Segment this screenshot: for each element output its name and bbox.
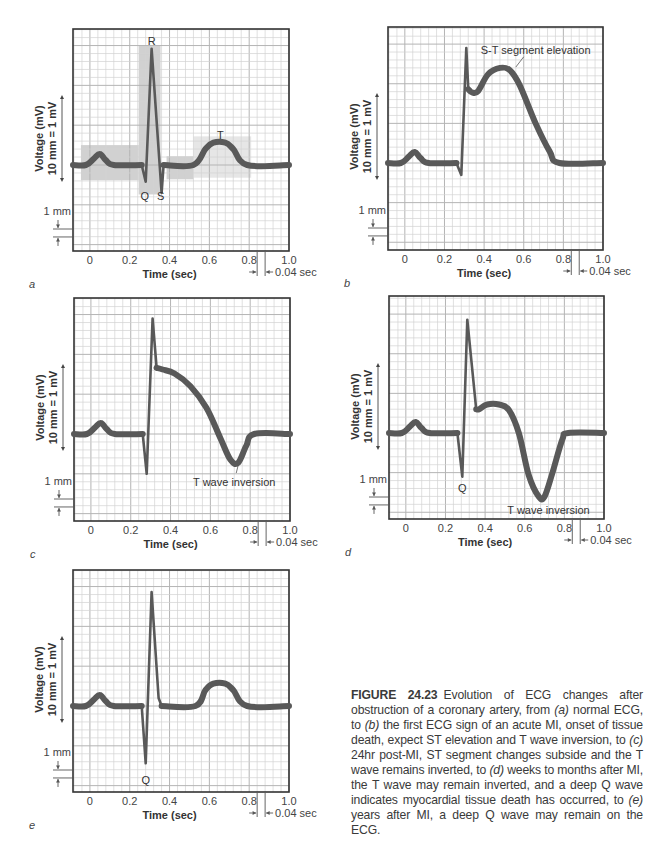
y-axis-scale: 10 mm = 1 mV (47, 370, 59, 444)
wave-label: Q (141, 774, 150, 786)
voltage-scale-arrow (376, 363, 380, 450)
mm-scale-indicator: 1 mm (44, 746, 74, 787)
caption-panel-ref: (d) (489, 763, 503, 777)
plot-frame (389, 296, 604, 519)
wave-label: R (148, 35, 156, 47)
x-tick-label: 0.8 (242, 795, 257, 807)
x-axis-title: Time (sec) (457, 267, 512, 279)
x-tick-label: 0.2 (123, 524, 138, 536)
x-tick-label: 0.4 (477, 522, 492, 534)
x-tick-label: 0.8 (556, 253, 571, 265)
mm-scale-indicator: 1 mm (360, 473, 390, 514)
y-axis-title: Voltage (mV) (349, 373, 361, 440)
time-scale-label: 0.04 sec (275, 266, 317, 278)
x-tick-label: 0.4 (476, 253, 491, 265)
x-tick-label: 0.6 (202, 795, 217, 807)
caption-panel-ref: (c) (629, 733, 643, 747)
x-tick-label: 0 (403, 522, 409, 534)
x-tick-label: 0 (88, 524, 94, 536)
leader-line (516, 57, 524, 67)
caption-panel-ref: (a) (554, 703, 568, 717)
voltage-scale-arrow (60, 95, 64, 182)
x-tick-label: 1.0 (282, 524, 297, 536)
ecg-panel-d: QT wave inversion00.20.40.60.81.0Time (s… (345, 296, 632, 558)
x-tick-label: 0.4 (162, 254, 177, 266)
x-tick-label: 0.4 (163, 524, 178, 536)
x-tick-label: 0.4 (162, 795, 177, 807)
ecg-grid (388, 27, 603, 250)
voltage-scale-arrow (60, 636, 64, 723)
y-axis-title: Voltage (mV) (33, 646, 45, 713)
y-axis-scale: 10 mm = 1 mV (361, 99, 373, 173)
time-scale-label: 0.04 sec (275, 807, 317, 819)
ecg-panel-a: RQST00.20.40.60.81.0Time (sec)0.04 secVo… (29, 29, 317, 290)
y-axis-title: Voltage (mV) (33, 105, 45, 172)
mm-scale-label: 1 mm (360, 473, 388, 485)
x-tick-label: 0 (87, 795, 93, 807)
wave-label: Q (140, 190, 149, 202)
x-tick-label: 0.2 (122, 254, 137, 266)
voltage-scale-arrow (375, 93, 379, 180)
mm-scale-label: 1 mm (44, 746, 72, 758)
mm-scale-indicator: 1 mm (44, 205, 74, 246)
wave-label: S-T segment elevation (481, 44, 591, 56)
time-scale-label: 0.04 sec (590, 534, 632, 546)
ecg-grid (73, 29, 289, 251)
panel-letter: d (345, 546, 352, 558)
x-tick-label: 0.2 (122, 795, 137, 807)
x-tick-label: 0.2 (438, 522, 453, 534)
ecg-trace (74, 319, 290, 474)
time-scale-label: 0.04 sec (276, 536, 318, 548)
x-tick-label: 0.6 (516, 253, 531, 265)
x-tick-label: 0.6 (202, 254, 217, 266)
x-tick-label: 0.6 (203, 524, 218, 536)
x-tick-label: 0.8 (557, 522, 572, 534)
caption-panel-ref: (e) (629, 793, 643, 807)
ecg-panel-e: Q00.20.40.60.81.0Time (sec)0.04 secVolta… (29, 570, 317, 831)
y-axis-scale: 10 mm = 1 mV (46, 101, 58, 175)
panel-letter: b (344, 277, 350, 289)
x-axis-title: Time (sec) (458, 536, 513, 548)
panel-letter: e (29, 819, 35, 831)
mm-scale-label: 1 mm (359, 204, 387, 216)
panel-letter: c (30, 548, 36, 560)
caption-segment: years after MI, a deep Q wave may remain… (351, 808, 643, 837)
x-tick-label: 0.8 (243, 524, 258, 536)
mm-scale-indicator: 1 mm (45, 475, 75, 516)
panel-letter: a (29, 278, 35, 290)
x-tick-label: 0.8 (242, 254, 257, 266)
ecg-grid (389, 296, 604, 519)
y-axis-title: Voltage (mV) (34, 374, 46, 441)
figure-number: FIGURE 24.23 (351, 688, 437, 702)
plot-frame (73, 29, 289, 251)
x-tick-label: 0 (87, 254, 93, 266)
x-tick-label: 0.6 (517, 522, 532, 534)
wave-label: T wave inversion (193, 476, 275, 488)
ecg-panel-c: T wave inversion00.20.40.60.81.0Time (se… (30, 298, 318, 560)
mm-scale-indicator: 1 mm (359, 204, 389, 245)
x-tick-label: 1.0 (596, 522, 611, 534)
wave-label: Q (458, 482, 467, 494)
wave-label: S (157, 190, 164, 202)
voltage-scale-arrow (61, 364, 65, 451)
x-tick-label: 1.0 (281, 795, 296, 807)
y-axis-scale: 10 mm = 1 mV (362, 369, 374, 443)
caption-segment: the first ECG sign of an acute MI, onset… (351, 718, 643, 747)
x-tick-label: 1.0 (281, 254, 296, 266)
mm-scale-label: 1 mm (44, 205, 72, 217)
figure-caption: FIGURE 24.23Evolution of ECG changes aft… (351, 688, 643, 838)
mm-scale-label: 1 mm (45, 475, 73, 487)
ecg-panel-b: S-T segment elevation00.20.40.60.81.0Tim… (344, 27, 631, 289)
y-axis-title: Voltage (mV) (348, 103, 360, 170)
plot-frame (73, 570, 289, 792)
wave-label: T wave inversion (507, 504, 589, 516)
x-axis-title: Time (sec) (143, 538, 198, 550)
x-tick-label: 1.0 (595, 253, 610, 265)
caption-text: Evolution of ECG changes after obstructi… (351, 688, 643, 837)
x-tick-label: 0 (402, 253, 408, 265)
caption-panel-ref: (b) (365, 718, 379, 732)
x-axis-title: Time (sec) (142, 809, 197, 821)
x-axis-title: Time (sec) (142, 268, 197, 280)
plot-frame (388, 27, 603, 250)
wave-label: T (217, 129, 224, 141)
